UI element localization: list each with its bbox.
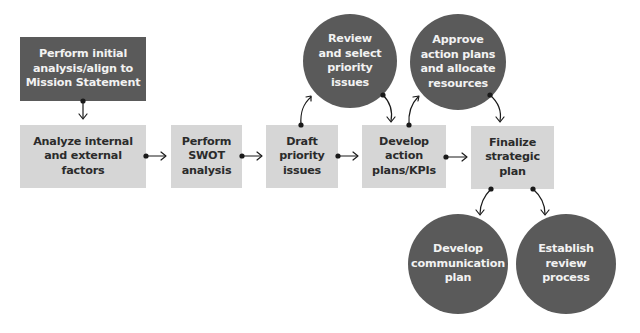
box-label: Perform initial analysis/align to Missio… [26,47,141,91]
circle-label: Develop communication plan [411,242,505,286]
box-draft-priority-issues: Draft priority issues [266,125,338,188]
arrow-finalize-to-communication [476,189,491,215]
arrow-draft-to-develop [338,152,358,160]
circle-label: Establish review process [538,242,594,286]
box-label: Develop action plans/KPIs [372,135,436,179]
circle-label: Approve action plans and allocate resour… [420,33,495,91]
arrow-review-to-develop [383,95,395,122]
box-label: Finalize strategic plan [485,136,540,180]
box-label: Draft priority issues [279,135,324,179]
circle-approve-action-plans: Approve action plans and allocate resour… [410,14,506,110]
box-analyze-factors: Analyze internal and external factors [20,125,146,188]
box-finalize-strategic-plan: Finalize strategic plan [471,126,554,189]
circle-establish-review-process: Establish review process [516,214,616,314]
circle-review-priority-issues: Review and select priority issues [303,14,397,108]
arrow-swot-to-draft [242,152,262,160]
box-perform-initial-analysis: Perform initial analysis/align to Missio… [20,37,146,101]
arrow-initial-to-analyze [79,101,87,119]
arrow-approve-to-finalize [490,95,504,122]
arrow-finalize-to-establish [533,189,549,215]
arrow-draft-to-review [301,96,311,125]
arrow-develop-to-approve [409,96,419,125]
circle-develop-communication-plan: Develop communication plan [408,214,508,314]
box-develop-action-plans: Develop action plans/KPIs [362,125,446,188]
box-label: Perform SWOT analysis [182,135,232,179]
box-perform-swot: Perform SWOT analysis [171,125,242,188]
box-label: Analyze internal and external factors [33,135,133,179]
circle-label: Review and select priority issues [318,32,381,90]
arrow-develop-to-finalize [446,153,467,161]
arrow-analyze-to-swot [146,152,166,160]
